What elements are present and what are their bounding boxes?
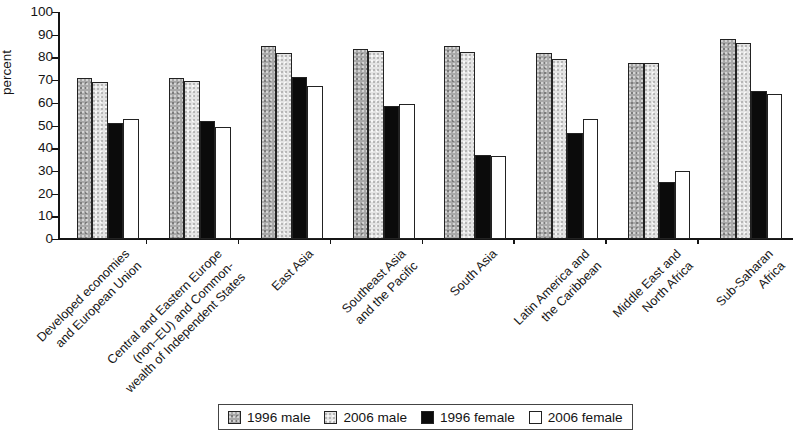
legend-label: 1996 female: [440, 410, 515, 425]
y-axis-tick-label: 80: [38, 51, 53, 65]
bar-group: [261, 12, 323, 239]
bar: [675, 171, 691, 239]
bar: [552, 59, 568, 239]
bar: [200, 121, 216, 239]
bar: [567, 133, 583, 239]
y-axis-tick-label: 20: [38, 187, 53, 201]
x-axis-group-tick: [330, 238, 331, 244]
x-axis-category-label: Latin America and the Caribbean: [510, 246, 605, 341]
x-axis-category-label: Sub-Saharan Africa: [713, 246, 789, 322]
legend-item: 2006 male: [324, 410, 406, 425]
y-axis-tick-label: 10: [38, 210, 53, 224]
bar: [644, 63, 660, 239]
bar: [536, 53, 552, 239]
bar: [475, 155, 491, 239]
plot-area: [58, 12, 793, 239]
x-axis-group-tick: [513, 238, 514, 244]
bar: [261, 46, 277, 239]
y-axis-tick-label: 70: [38, 73, 53, 87]
bar: [184, 81, 200, 239]
bar: [720, 39, 736, 239]
bar-group: [720, 12, 782, 239]
bar: [292, 77, 308, 239]
bar: [108, 123, 124, 239]
x-axis-category-label: Southeast Asia and the Pacific: [338, 246, 421, 329]
x-axis-group-tick: [238, 238, 239, 244]
bar: [736, 43, 752, 239]
y-axis-tick-label: 90: [38, 28, 53, 42]
y-axis-tick-label: 60: [38, 96, 53, 110]
legend-swatch-icon: [421, 411, 434, 424]
bar: [92, 82, 108, 239]
x-axis-group-tick: [605, 238, 606, 244]
bar-group: [353, 12, 415, 239]
y-axis-tick-label: 100: [30, 5, 53, 19]
bar-chart: 0102030405060708090100 percent Developed…: [0, 0, 801, 435]
bar: [583, 119, 599, 239]
x-axis-category-label: East Asia: [269, 246, 318, 295]
bar: [77, 78, 93, 239]
bar-group: [536, 12, 598, 239]
y-axis-tick-label: 0: [45, 232, 53, 246]
legend-item: 1996 male: [228, 410, 310, 425]
bar-group: [444, 12, 506, 239]
bar: [384, 106, 400, 239]
bar-group: [77, 12, 139, 239]
bar: [491, 156, 507, 239]
x-axis-group-tick: [697, 238, 698, 244]
legend-label: 1996 male: [247, 410, 310, 425]
bar: [444, 46, 460, 239]
bar: [460, 52, 476, 239]
bar-group: [628, 12, 690, 239]
x-axis-category-label: South Asia: [447, 246, 501, 300]
legend-item: 2006 female: [529, 410, 623, 425]
bar: [215, 127, 231, 239]
bar-group: [169, 12, 231, 239]
x-axis-group-tick: [146, 238, 147, 244]
x-axis-group-tick: [422, 238, 423, 244]
y-axis-title: percent: [0, 50, 14, 95]
bar: [307, 86, 323, 239]
x-axis-category-label: Middle East and North Africa: [609, 246, 696, 333]
bar: [368, 51, 384, 239]
bar: [767, 94, 783, 239]
bar: [123, 119, 139, 239]
legend-item: 1996 female: [421, 410, 515, 425]
legend-swatch-icon: [228, 411, 241, 424]
legend-swatch-icon: [529, 411, 542, 424]
bar: [628, 63, 644, 239]
bar: [399, 104, 415, 239]
legend-label: 2006 male: [343, 410, 406, 425]
y-axis-tick-label: 30: [38, 164, 53, 178]
bar: [353, 49, 369, 239]
y-axis-tick-label: 40: [38, 141, 53, 155]
legend-swatch-icon: [324, 411, 337, 424]
bar: [276, 53, 292, 239]
bar: [751, 91, 767, 239]
bar: [169, 78, 185, 239]
bar: [659, 182, 675, 239]
chart-legend: 1996 male2006 male1996 female2006 female: [218, 404, 633, 430]
legend-label: 2006 female: [548, 410, 623, 425]
y-axis-tick-label: 50: [38, 119, 53, 133]
